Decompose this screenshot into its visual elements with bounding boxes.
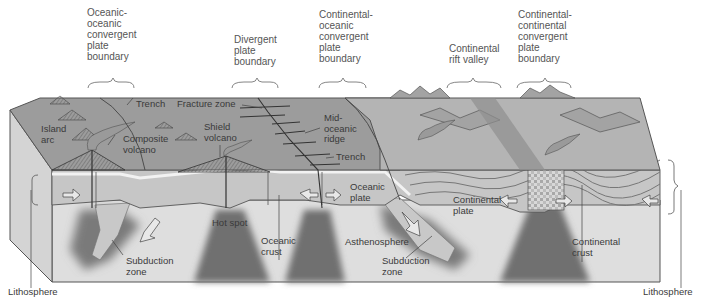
label-lithosphere-left: Lithosphere (8, 287, 58, 298)
label-asthenosphere: Asthenosphere (345, 237, 409, 248)
label-shield-volcano: Shield volcano (204, 122, 237, 143)
label-subduction-zone-left: Subduction zone (126, 256, 174, 277)
label-continental-crust: Continental crust (572, 237, 620, 258)
label-trench-right: Trench (336, 152, 365, 163)
label-oceanic-crust: Oceanic crust (261, 236, 296, 257)
label-trench-left: Trench (136, 99, 165, 110)
label-continental-continental-boundary: Continental- continental convergent plat… (518, 9, 572, 64)
label-subduction-zone-right: Subduction zone (382, 256, 430, 277)
label-oceanic-plate: Oceanic plate (350, 182, 385, 203)
label-oceanic-oceanic-boundary: Oceanic- oceanic convergent plate bounda… (87, 7, 136, 62)
label-fracture-zone: Fracture zone (177, 99, 236, 110)
label-continental-rift-valley: Continental rift valley (449, 43, 500, 65)
boundary-brackets (88, 78, 571, 88)
label-composite-volcano: Composite volcano (123, 134, 168, 155)
label-lithosphere-right: Lithosphere (643, 287, 693, 298)
label-island-arc: Island arc (41, 124, 66, 145)
label-continental-plate: Continental plate (453, 195, 501, 216)
label-continental-oceanic-boundary: Continental- oceanic convergent plate bo… (319, 9, 373, 64)
label-mid-oceanic-ridge: Mid- oceanic ridge (324, 113, 357, 145)
lithosphere-bracket-right (668, 160, 678, 214)
plate-tectonics-diagram: Oceanic- oceanic convergent plate bounda… (0, 0, 702, 302)
label-hot-spot: Hot spot (212, 218, 247, 229)
label-divergent-boundary: Divergent plate boundary (234, 34, 277, 67)
